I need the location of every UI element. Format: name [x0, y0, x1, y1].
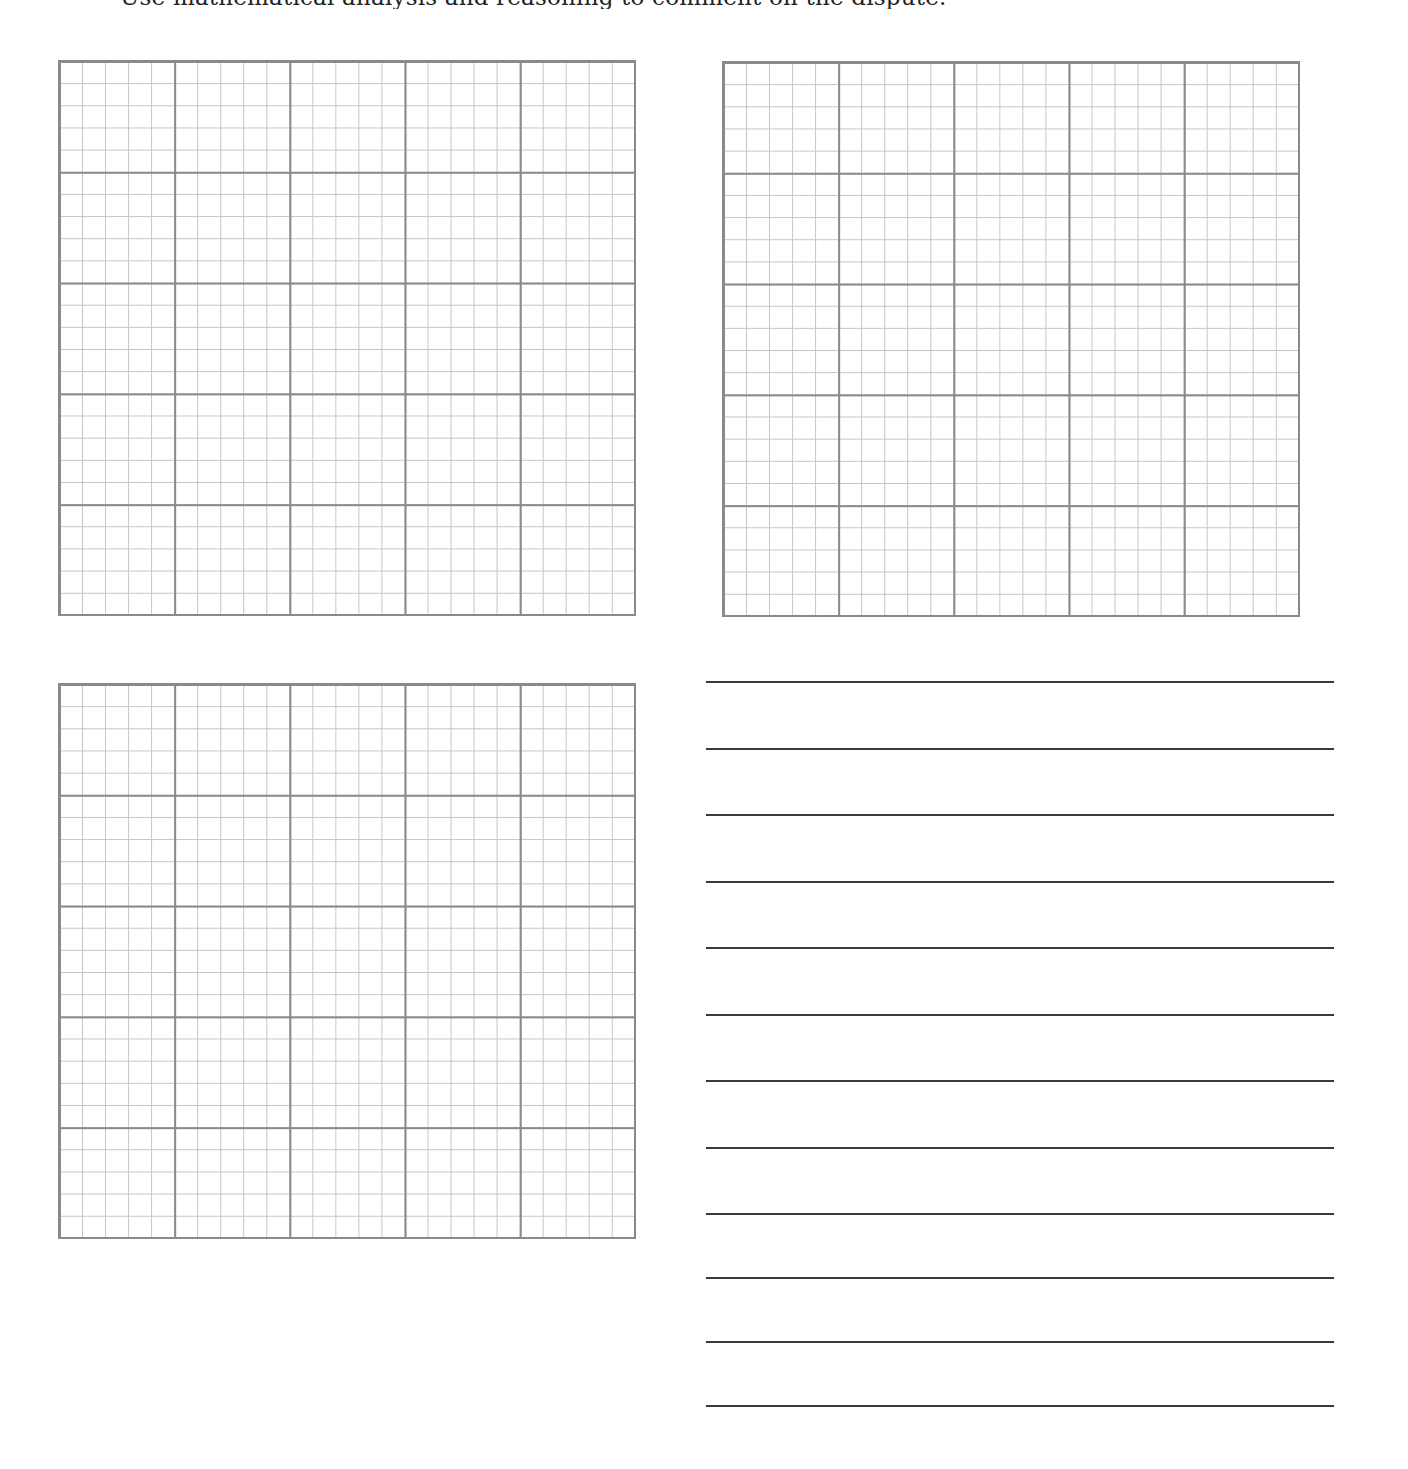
- graph-paper-grid-1: [58, 60, 636, 616]
- writing-line: [706, 748, 1334, 750]
- writing-line: [706, 1213, 1334, 1215]
- instruction-text-clipped: Use mathematical analysis and reasoning …: [0, 0, 1408, 9]
- writing-line: [706, 1277, 1334, 1279]
- graph-paper-grid-3: [58, 683, 636, 1239]
- writing-line: [706, 681, 1334, 683]
- writing-line: [706, 881, 1334, 883]
- writing-line: [706, 1080, 1334, 1082]
- writing-line: [706, 1405, 1334, 1407]
- instruction-text: Use mathematical analysis and reasoning …: [120, 0, 947, 9]
- writing-line: [706, 1014, 1334, 1016]
- writing-line: [706, 1147, 1334, 1149]
- writing-line: [706, 947, 1334, 949]
- graph-paper-grid-2: [722, 61, 1300, 617]
- writing-line: [706, 814, 1334, 816]
- writing-line: [706, 1341, 1334, 1343]
